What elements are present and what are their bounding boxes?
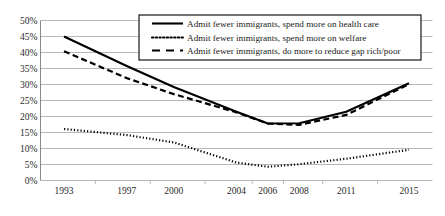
x-axis-tick-label: 2008 — [290, 186, 309, 196]
series-line-3 — [64, 51, 409, 125]
line-chart: 0%5%10%15%20%25%30%35%40%45%50% 19931997… — [0, 0, 445, 216]
legend-entry-label-1: Admit fewer immigrants, spend more on he… — [187, 19, 379, 29]
tick-marks-group — [95, 181, 377, 185]
x-axis-labels: 19931997200020042006200820112015 — [55, 186, 419, 196]
x-axis-tick-label: 2011 — [337, 186, 356, 196]
y-axis-tick-label: 50% — [20, 16, 38, 26]
x-axis-tick-label: 2015 — [399, 186, 418, 196]
y-axis-tick-label: 15% — [20, 128, 38, 138]
chart-legend: Admit fewer immigrants, spend more on he… — [139, 15, 421, 60]
x-axis-tick-label: 1997 — [117, 186, 136, 196]
y-axis-tick-label: 40% — [20, 48, 38, 58]
y-axis-tick-label: 0% — [25, 176, 38, 186]
y-axis-tick-label: 30% — [20, 80, 38, 90]
chart-canvas: 0%5%10%15%20%25%30%35%40%45%50% 19931997… — [0, 0, 445, 216]
legend-entry-label-2: Admit fewer immigrants, spend more on we… — [187, 33, 366, 43]
y-axis-tick-label: 45% — [20, 32, 38, 42]
y-axis-labels: 0%5%10%15%20%25%30%35%40%45%50% — [20, 16, 38, 186]
y-axis-tick-label: 20% — [20, 112, 38, 122]
series-line-2 — [64, 129, 409, 167]
x-axis-tick-label: 1993 — [55, 186, 74, 196]
y-axis-tick-label: 35% — [20, 64, 38, 74]
legend-entry-label-3: Admit fewer immigrants, do more to reduc… — [187, 46, 401, 56]
y-axis-tick-label: 25% — [20, 96, 38, 106]
x-axis-tick-label: 2004 — [227, 186, 246, 196]
y-axis-tick-label: 5% — [25, 160, 38, 170]
y-axis-tick-label: 10% — [20, 144, 38, 154]
x-axis-tick-label: 2000 — [164, 186, 183, 196]
x-axis-tick-label: 2006 — [258, 186, 277, 196]
